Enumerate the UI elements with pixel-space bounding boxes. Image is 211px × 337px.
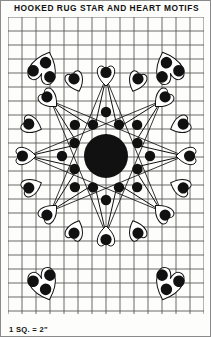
pattern-dot xyxy=(88,119,98,129)
pattern-dot xyxy=(145,151,155,161)
ring-heart xyxy=(20,175,45,199)
pattern-grid-canvas xyxy=(8,17,204,314)
pattern-dot xyxy=(101,107,111,117)
pattern-dot xyxy=(132,164,142,174)
pattern-dot xyxy=(101,195,111,205)
pattern-svg xyxy=(8,17,204,314)
ring-heart xyxy=(149,86,175,112)
ring-heart xyxy=(36,86,62,112)
ring-heart-dot xyxy=(17,150,28,161)
center-disc xyxy=(84,134,128,178)
ring-heart xyxy=(125,217,149,242)
pattern-sheet: HOOKED RUG STAR AND HEART MOTIFS 1 SQ. =… xyxy=(0,0,211,337)
page-title: HOOKED RUG STAR AND HEART MOTIFS xyxy=(1,3,211,13)
scale-note: 1 SQ. = 2" xyxy=(9,325,48,334)
corner-heart-bottom-left xyxy=(25,265,63,304)
pattern-dot xyxy=(132,182,142,192)
pattern-dot xyxy=(88,182,98,192)
ring-heart-dot xyxy=(100,67,111,78)
pattern-dot xyxy=(114,182,124,192)
corner-heart-top-right xyxy=(149,47,187,86)
ring-heart xyxy=(167,175,192,199)
corner-heart-bottom-right xyxy=(149,265,187,304)
pattern-dot xyxy=(70,120,80,130)
ring-heart-dot xyxy=(100,234,111,245)
ring-heart xyxy=(64,217,88,242)
ring-heart xyxy=(97,226,114,246)
pattern-dot xyxy=(57,151,67,161)
pattern-dot xyxy=(69,138,79,148)
ring-heart-dot xyxy=(184,150,195,161)
pattern-dot xyxy=(132,138,142,148)
pattern-dot xyxy=(132,120,142,130)
ring-heart xyxy=(20,114,45,138)
corner-heart-top-left xyxy=(25,47,63,86)
ring-heart xyxy=(16,147,36,164)
ring-heart xyxy=(97,66,114,86)
pattern-dot xyxy=(114,119,124,129)
ring-heart xyxy=(167,114,192,138)
pattern-dot xyxy=(70,182,80,192)
ring-heart xyxy=(176,147,196,164)
pattern-dot xyxy=(69,164,79,174)
